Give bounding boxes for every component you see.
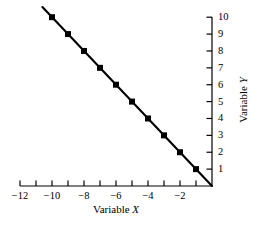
- x-tick-label: −8: [78, 191, 89, 202]
- y-tick-label: 10: [218, 12, 229, 23]
- data-point-marker: [193, 166, 199, 172]
- x-axis-title: Variable X: [93, 203, 139, 215]
- x-tick-label: −2: [174, 191, 185, 202]
- y-tick-label: 4: [218, 113, 223, 124]
- data-point-marker: [113, 82, 119, 88]
- data-point-marker: [97, 65, 103, 71]
- data-point-marker: [177, 149, 183, 155]
- y-tick-label: 7: [218, 63, 223, 74]
- x-axis-title-text: Variable: [93, 203, 130, 215]
- y-tick-label: 6: [218, 79, 223, 90]
- y-tick-label: 2: [218, 147, 223, 158]
- x-tick-label: −4: [142, 191, 153, 202]
- x-tick-label: −6: [110, 191, 121, 202]
- data-point-marker: [145, 115, 151, 121]
- x-tick-label: −12: [12, 191, 28, 202]
- y-tick-label: 9: [218, 29, 223, 40]
- y-axis-title: Variable Y: [237, 77, 249, 123]
- data-point-marker: [81, 48, 87, 54]
- y-axis-ticks: [207, 17, 213, 169]
- y-tick-label: 8: [218, 46, 223, 57]
- x-tick-label: −10: [44, 191, 60, 202]
- y-axis-title-symbol: Y: [237, 77, 249, 83]
- data-series: [42, 7, 212, 186]
- chart-figure: −12−10−8−6−4−2 12345678910 Variable X Va…: [0, 0, 258, 229]
- x-axis-title-symbol: X: [132, 203, 139, 215]
- y-axis-title-text: Variable: [237, 86, 249, 123]
- data-point-marker: [129, 99, 135, 105]
- y-tick-label: 1: [218, 164, 223, 175]
- axes: [20, 17, 212, 186]
- data-point-marker: [49, 14, 55, 20]
- y-tick-label: 5: [218, 96, 223, 107]
- x-axis-ticks: [20, 181, 196, 187]
- data-point-marker: [65, 31, 71, 37]
- data-point-marker: [161, 132, 167, 138]
- y-tick-label: 3: [218, 130, 223, 141]
